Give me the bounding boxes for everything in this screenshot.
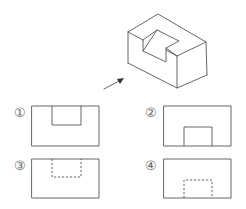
option-4-label: ④ xyxy=(145,158,157,173)
option-4[interactable]: ④ xyxy=(145,158,231,198)
option-2[interactable]: ② xyxy=(145,105,231,146)
option-3[interactable]: ③ xyxy=(14,158,99,198)
option-1[interactable]: ① xyxy=(14,105,99,146)
option-3-outline xyxy=(32,159,99,198)
option-3-hidden-notch xyxy=(52,159,81,177)
option-2-notch xyxy=(184,127,212,146)
option-1-outline xyxy=(32,106,99,146)
option-4-hidden-notch xyxy=(184,180,212,198)
option-1-label: ① xyxy=(14,105,26,120)
diagram-canvas: ① ② ③ ④ xyxy=(0,0,246,209)
isometric-block xyxy=(128,14,207,88)
option-2-label: ② xyxy=(145,105,157,120)
view-direction-arrow xyxy=(104,78,124,89)
option-4-outline xyxy=(164,159,231,198)
option-3-label: ③ xyxy=(14,158,26,173)
option-2-outline xyxy=(164,106,231,146)
option-1-notch xyxy=(52,106,81,125)
